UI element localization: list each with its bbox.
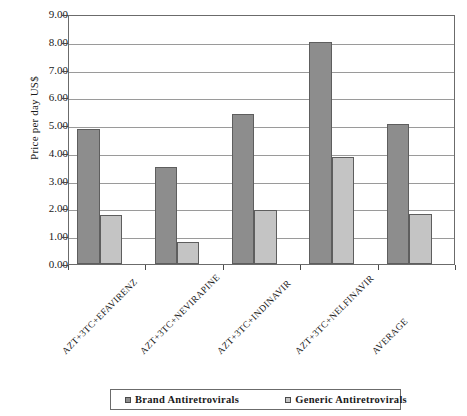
x-axis-tick-mark bbox=[145, 265, 146, 270]
x-axis-category-label: AZT+3TC+EFAVIRENZ bbox=[60, 277, 139, 356]
legend-label-brand: Brand Antiretrovirals bbox=[135, 394, 239, 405]
bar-brand bbox=[77, 129, 99, 264]
bar-brand bbox=[387, 124, 409, 264]
bar-brand bbox=[155, 167, 177, 264]
x-axis-category-label: AVERAGE bbox=[370, 316, 410, 356]
bar-generic bbox=[409, 214, 431, 264]
plot-area bbox=[68, 15, 455, 265]
x-axis-category-label: AZT+3TC+NELFINAVIR bbox=[293, 273, 376, 356]
x-axis-category-label: AZT+3TC+NEVIRAPINE bbox=[138, 272, 222, 356]
x-axis-tick-mark bbox=[223, 265, 224, 270]
x-axis-tick-mark bbox=[68, 265, 69, 270]
legend-entry-generic[interactable]: Generic Antiretrovirals bbox=[285, 394, 407, 405]
bar-generic bbox=[177, 242, 199, 264]
bar-generic bbox=[332, 157, 354, 264]
x-axis-category-label: AZT+3TC+INDINAVIR bbox=[215, 278, 293, 356]
chart-legend: Brand Antiretrovirals Generic Antiretrov… bbox=[110, 389, 401, 410]
x-axis-tick-mark bbox=[378, 265, 379, 270]
legend-swatch-generic-icon bbox=[285, 397, 291, 403]
bar-brand bbox=[232, 114, 254, 264]
chart-figure: Price per day US$ 9.008.007.006.005.004.… bbox=[0, 0, 467, 416]
bar-generic bbox=[254, 210, 276, 264]
bar-brand bbox=[309, 42, 331, 264]
bar-series-layer bbox=[69, 16, 454, 264]
legend-swatch-brand-icon bbox=[125, 397, 131, 403]
bar-generic bbox=[100, 215, 122, 264]
x-axis-tick-mark bbox=[300, 265, 301, 270]
y-axis-tick-group: 9.008.007.006.005.004.003.002.001.000.00 bbox=[12, 15, 68, 265]
legend-entry-brand[interactable]: Brand Antiretrovirals bbox=[125, 394, 239, 405]
legend-label-generic: Generic Antiretrovirals bbox=[295, 394, 407, 405]
x-axis-tick-mark bbox=[455, 265, 456, 270]
